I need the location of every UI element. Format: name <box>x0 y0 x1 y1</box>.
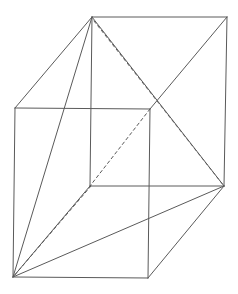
prism-drawing <box>0 0 238 294</box>
diagonal-AC <box>13 186 224 277</box>
edge-AB <box>13 277 148 278</box>
prism-diagonals <box>13 17 224 277</box>
prism-diagram <box>0 0 238 294</box>
edge-AE <box>13 108 15 277</box>
diagonal-AH <box>13 17 92 277</box>
edge-CG <box>224 17 227 186</box>
edge-DH <box>90 17 92 186</box>
diagonal-DA-dashed <box>13 186 91 277</box>
edge-EH <box>15 17 92 108</box>
diagonal-FD-dashed <box>90 109 150 186</box>
edge-BF <box>148 109 150 278</box>
edge-FG <box>150 17 227 109</box>
edge-EF <box>15 108 150 109</box>
edge-BC <box>148 186 224 278</box>
